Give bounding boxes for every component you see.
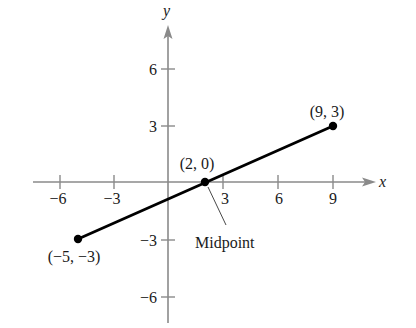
- point-right-endpoint: [329, 122, 337, 130]
- y-axis-label: y: [161, 2, 171, 20]
- y-tick-label: 6: [149, 61, 157, 78]
- point-midpoint: [201, 178, 209, 186]
- y-tick-label: 3: [149, 118, 157, 135]
- midpoint-annotation: Midpoint: [195, 234, 255, 252]
- point-label-left-endpoint: (−5, −3): [48, 248, 101, 266]
- x-tick-label: 9: [329, 190, 337, 207]
- point-left-endpoint: [74, 235, 82, 243]
- point-label-midpoint: (2, 0): [180, 155, 215, 173]
- axes: [33, 32, 368, 323]
- x-tick-label: 3: [221, 190, 229, 207]
- y-tick-label: −3: [140, 232, 157, 249]
- point-label-right-endpoint: (9, 3): [310, 103, 345, 121]
- x-axis-label: x: [378, 173, 386, 190]
- x-tick-label: −3: [103, 190, 120, 207]
- y-tick-label: −6: [140, 289, 157, 306]
- x-tick-label: 6: [275, 190, 283, 207]
- x-tick-label: −6: [49, 190, 66, 207]
- coordinate-plot: −6 −3 3 6 9 6 3 −3 −6 x y (9, 3) (2, 0) …: [0, 0, 416, 328]
